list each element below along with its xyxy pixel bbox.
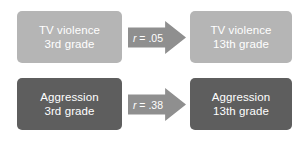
arrow-tv-violence: r = .05 xyxy=(128,21,186,54)
node-tv-violence-3rd: TV violence 3rd grade xyxy=(17,11,122,63)
node-label-line1: TV violence xyxy=(39,23,100,37)
node-label-line1: TV violence xyxy=(210,23,271,37)
correlation-value: .05 xyxy=(148,32,163,44)
arrow-aggression: r = .38 xyxy=(128,88,186,121)
node-tv-violence-13th: TV violence 13th grade xyxy=(190,11,292,63)
arrow-label-aggression: r = .38 xyxy=(129,99,167,111)
correlation-value: .38 xyxy=(148,99,163,111)
node-label-line2: 13th grade xyxy=(213,37,269,51)
node-label-line2: 3rd grade xyxy=(44,37,94,51)
arrow-label-tv-violence: r = .05 xyxy=(129,32,167,44)
node-label-line1: Aggression xyxy=(40,90,99,104)
correlation-path-diagram: TV violence 3rd grade r = .05 TV violenc… xyxy=(0,0,307,141)
node-aggression-3rd: Aggression 3rd grade xyxy=(17,78,122,130)
node-aggression-13th: Aggression 13th grade xyxy=(190,78,292,130)
node-label-line1: Aggression xyxy=(212,90,271,104)
node-label-line2: 3rd grade xyxy=(44,104,94,118)
correlation-equals: = xyxy=(136,32,148,44)
correlation-equals: = xyxy=(136,99,148,111)
node-label-line2: 13th grade xyxy=(213,104,269,118)
